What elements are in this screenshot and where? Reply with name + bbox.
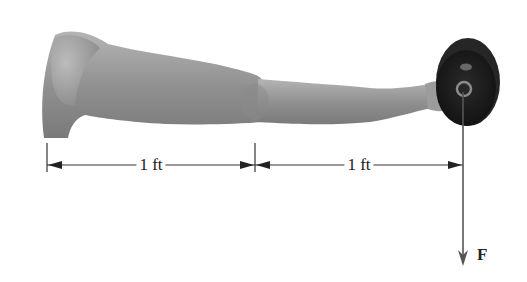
forearm [258,79,432,124]
arrowhead-right-1 [240,161,254,169]
force-label: F [477,246,487,264]
arrowhead-left-2 [256,161,270,169]
arrowhead-left-1 [48,161,62,169]
arm-force-diagram: 1 ft 1 ft F [0,0,527,282]
arrowhead-right-2 [448,161,462,169]
dimension-label-upper-arm: 1 ft [136,156,165,174]
weight-plate [436,38,500,126]
dimension-lines [47,143,463,172]
dimension-label-forearm: 1 ft [344,156,373,174]
elbow-shade [241,84,269,120]
arm-illustration [42,32,452,138]
